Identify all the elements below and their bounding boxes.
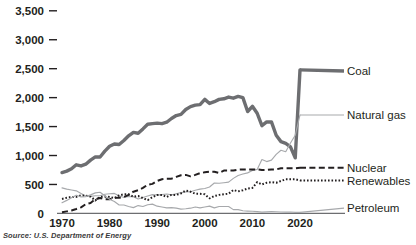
x-tick-label: 2000 [192, 217, 218, 229]
leader-line-coal [300, 70, 344, 71]
series-lines [62, 70, 300, 213]
series-label-petroleum: Petroleum [347, 202, 399, 214]
series-label-leaders [300, 70, 344, 213]
y-tick-label: 3,500 [15, 5, 44, 17]
y-tick-label: 3,000 [15, 34, 44, 46]
y-axis-tick-labels: 3,5003,0002,5002,0001,5001,0005000 [15, 5, 44, 220]
y-tick-label: 1,500 [15, 121, 44, 133]
x-tick-label: 1970 [49, 217, 75, 229]
y-tick-label: 500 [25, 179, 44, 191]
y-tick-label: 2,000 [15, 92, 44, 104]
x-tick-label: 1980 [97, 217, 123, 229]
y-axis-tick-marks [49, 11, 57, 185]
x-tick-label: 2010 [240, 217, 266, 229]
energy-generation-line-chart: 3,5003,0002,5002,0001,5001,0005000 19701… [0, 0, 416, 245]
x-axis-tick-labels: 197019801990200020102020 [49, 217, 313, 229]
chart-plot-area: 3,5003,0002,5002,0001,5001,0005000 19701… [0, 0, 416, 245]
y-tick-label: 0 [38, 208, 44, 220]
x-tick-label: 2020 [287, 217, 313, 229]
series-label-natural-gas: Natural gas [347, 109, 406, 121]
leader-line-petroleum [300, 208, 344, 212]
y-tick-label: 2,500 [15, 63, 44, 75]
series-label-renewables: Renewables [347, 175, 411, 187]
series-line-nuclear [62, 168, 300, 213]
series-line-renewables [62, 179, 300, 200]
series-label-nuclear: Nuclear [347, 162, 387, 174]
y-tick-label: 1,000 [15, 150, 44, 162]
source-note: Source: U.S. Department of Energy [3, 231, 131, 240]
series-label-coal: Coal [347, 65, 371, 77]
series-line-coal [62, 70, 300, 173]
x-tick-label: 1990 [144, 217, 170, 229]
series-labels: CoalNatural gasNuclearRenewablesPetroleu… [347, 65, 411, 214]
